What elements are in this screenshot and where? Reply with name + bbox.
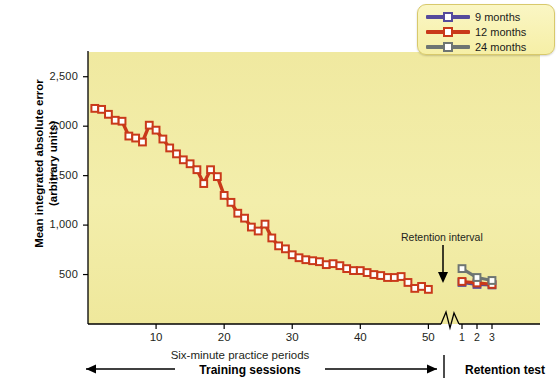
series-layer bbox=[91, 105, 495, 293]
series-1-training-marker-13 bbox=[180, 156, 187, 163]
series-1-training-marker-46 bbox=[405, 279, 412, 286]
retention-interval-arrow-head bbox=[438, 272, 448, 283]
annotation-layer bbox=[438, 245, 448, 283]
series-1-training-marker-16 bbox=[200, 180, 207, 187]
x-tick-label-50: 50 bbox=[413, 331, 443, 343]
training-bracket-arrow-right bbox=[427, 364, 437, 373]
series-2-retention-marker-1 bbox=[474, 274, 481, 281]
series-1-training-marker-11 bbox=[166, 145, 173, 152]
series-1-training-marker-7 bbox=[139, 139, 146, 146]
legend-item-24-months[interactable]: 24 months bbox=[426, 40, 526, 54]
series-1-training-marker-31 bbox=[302, 256, 309, 263]
series-1-training-marker-5 bbox=[125, 133, 132, 140]
y-axis-title-line1: Mean integrated absolute error bbox=[33, 79, 45, 248]
legend-label-24-months: 24 months bbox=[475, 41, 526, 53]
series-1-training-marker-23 bbox=[248, 224, 255, 231]
series-1-training-marker-42 bbox=[377, 272, 384, 279]
series-1-training-marker-21 bbox=[234, 210, 241, 217]
axis-break-symbol bbox=[441, 312, 459, 328]
series-1-training-marker-41 bbox=[371, 271, 378, 278]
series-1-training-marker-29 bbox=[289, 251, 296, 258]
series-1-training-marker-14 bbox=[187, 160, 194, 167]
legend-item-12-months[interactable]: 12 months bbox=[426, 25, 526, 39]
legend-marker-1 bbox=[443, 27, 453, 37]
series-1-training-marker-28 bbox=[282, 245, 289, 252]
series-1-retention-marker-0 bbox=[459, 278, 466, 285]
retention-tick-label-3: 3 bbox=[485, 331, 499, 343]
axes-layer bbox=[83, 51, 540, 329]
series-1-training-marker-49 bbox=[425, 286, 432, 293]
series-1-training-marker-15 bbox=[194, 166, 201, 173]
series-1-training-marker-6 bbox=[132, 135, 139, 142]
y-axis-title: Mean integrated absolute error (arbitrar… bbox=[33, 74, 60, 254]
legend-symbol-24-months bbox=[426, 42, 470, 53]
retention-tick-label-1: 1 bbox=[455, 331, 469, 343]
legend-symbol-12-months bbox=[426, 27, 470, 38]
x-tick-label-40: 40 bbox=[345, 331, 375, 343]
chart-figure: 5001,0001,5002,0002,500 1020304050 123 M… bbox=[0, 0, 558, 390]
retention-interval-annotation: Retention interval bbox=[401, 231, 483, 243]
series-1-training-marker-1 bbox=[98, 106, 105, 113]
series-1-training-marker-47 bbox=[411, 285, 418, 292]
series-1-training-marker-45 bbox=[398, 273, 405, 280]
series-1-training-marker-22 bbox=[241, 215, 248, 222]
series-1-training-marker-32 bbox=[309, 257, 316, 264]
series-1-training-marker-35 bbox=[330, 260, 337, 267]
series-line-1 bbox=[95, 108, 429, 289]
chart-legend[interactable]: 9 months 12 months 24 months bbox=[417, 4, 555, 55]
legend-marker-2 bbox=[443, 42, 453, 52]
series-1-training-marker-19 bbox=[221, 192, 228, 199]
series-1-training-marker-43 bbox=[384, 274, 391, 281]
series-1-training-marker-25 bbox=[262, 221, 269, 228]
series-1-training-marker-40 bbox=[364, 269, 371, 276]
bracket-label-training: Training sessions bbox=[175, 363, 325, 377]
x-tick-label-30: 30 bbox=[277, 331, 307, 343]
series-1-training-marker-36 bbox=[336, 262, 343, 269]
legend-marker-0 bbox=[443, 12, 453, 22]
series-1-training-marker-18 bbox=[214, 173, 221, 180]
series-1-training-marker-2 bbox=[105, 111, 112, 118]
x-tick-label-10: 10 bbox=[141, 331, 171, 343]
legend-symbol-9-months bbox=[426, 12, 470, 23]
series-1-training-marker-48 bbox=[418, 283, 425, 290]
y-axis-title-wrap: Mean integrated absolute error (arbitrar… bbox=[0, 0, 60, 390]
legend-label-12-months: 12 months bbox=[475, 26, 526, 38]
bracket-label-retention: Retention test bbox=[448, 363, 558, 377]
x-axis-title: Six-minute practice periods bbox=[150, 349, 330, 361]
legend-item-9-months[interactable]: 9 months bbox=[426, 10, 520, 24]
retention-tick-label-2: 2 bbox=[470, 331, 484, 343]
series-1-training-marker-33 bbox=[316, 258, 323, 265]
series-1-training-marker-27 bbox=[275, 242, 282, 249]
series-1-training-marker-37 bbox=[343, 265, 350, 272]
series-2-retention-marker-0 bbox=[459, 265, 466, 272]
series-1-training-marker-12 bbox=[173, 150, 180, 157]
series-1-training-marker-39 bbox=[357, 267, 364, 274]
series-1-training-marker-10 bbox=[159, 136, 166, 143]
series-1-training-marker-38 bbox=[350, 267, 357, 274]
training-bracket-arrow-left bbox=[86, 364, 96, 373]
series-1-training-marker-17 bbox=[207, 166, 214, 173]
series-1-training-marker-9 bbox=[153, 127, 160, 134]
series-1-training-marker-4 bbox=[119, 118, 126, 125]
legend-label-9-months: 9 months bbox=[475, 11, 520, 23]
series-1-training-marker-30 bbox=[296, 254, 303, 261]
series-1-training-marker-0 bbox=[91, 105, 98, 112]
series-1-training-marker-20 bbox=[228, 199, 235, 206]
series-1-training-marker-34 bbox=[323, 261, 330, 268]
x-tick-label-20: 20 bbox=[209, 331, 239, 343]
series-1-training-marker-8 bbox=[146, 122, 153, 129]
y-axis-title-line2: (arbitrary units) bbox=[46, 121, 58, 206]
series-1-training-marker-44 bbox=[391, 274, 398, 281]
series-1-training-marker-26 bbox=[268, 235, 275, 242]
series-2-retention-marker-2 bbox=[489, 277, 496, 284]
series-1-training-marker-3 bbox=[112, 117, 119, 124]
series-1-training-marker-24 bbox=[255, 228, 262, 235]
